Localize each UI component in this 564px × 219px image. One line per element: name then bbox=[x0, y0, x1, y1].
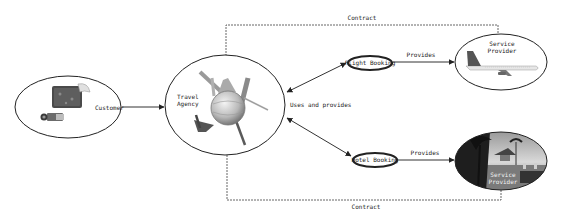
service-provider-hotel-label-line1: Service bbox=[490, 171, 516, 178]
service-provider-flight-label-line2: Provider bbox=[488, 47, 517, 54]
flight-booking-node[interactable]: Flight Booking bbox=[345, 56, 396, 70]
hotel-provides-label: Provides bbox=[411, 149, 440, 156]
travel-agency-label-line2: Agency bbox=[177, 100, 199, 108]
uses-and-provides-label: Uses and provides bbox=[290, 101, 352, 109]
agency-flight-arrow bbox=[287, 63, 346, 92]
hotel-booking-label: Hotel Booking bbox=[352, 156, 399, 164]
contract-top-label: Contract bbox=[348, 14, 377, 21]
camera-icon bbox=[41, 113, 65, 121]
travel-agency-diagram: Contract Contract Uses and provides Prov… bbox=[0, 0, 564, 219]
contract-top-connector: Contract bbox=[226, 14, 498, 56]
customer-node[interactable]: Customer bbox=[15, 76, 124, 138]
service-provider-hotel-label-line2: Provider bbox=[489, 178, 518, 185]
contract-bottom-label: Contract bbox=[352, 203, 381, 210]
service-provider-flight-label-line1: Service bbox=[489, 40, 515, 47]
travel-agency-label-line1: Travel bbox=[177, 93, 199, 100]
service-provider-flight-node[interactable]: Service Provider bbox=[455, 34, 547, 90]
flight-booking-label: Flight Booking bbox=[345, 59, 396, 67]
customer-label: Customer bbox=[95, 104, 124, 111]
travel-agency-node[interactable]: Travel Agency bbox=[165, 55, 285, 155]
service-provider-hotel-node[interactable]: Service Provider bbox=[455, 132, 547, 192]
agency-hotel-arrow bbox=[287, 118, 351, 156]
hotel-booking-node[interactable]: Hotel Booking bbox=[352, 153, 399, 167]
flight-provides-label: Provides bbox=[407, 51, 436, 58]
